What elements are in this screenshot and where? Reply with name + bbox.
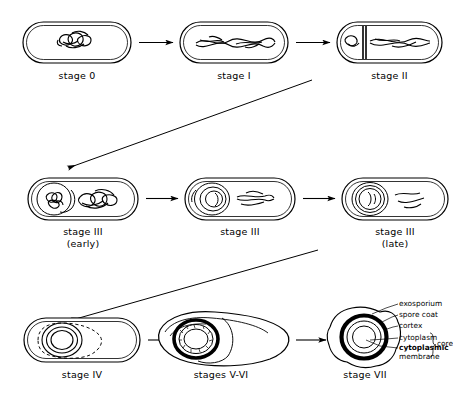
stage-i-cell — [180, 22, 288, 63]
row-1-group — [23, 22, 442, 168]
stage-label-stage-vii: stage VII — [318, 369, 412, 381]
stages-v-vi-cell — [159, 312, 289, 366]
stage-label-stages-v-vi: stages V-VI — [156, 369, 286, 381]
stage-label-text: stage II — [371, 70, 408, 81]
stage-label-stage-i: stage I — [180, 70, 288, 82]
stage-label-text: stage III — [185, 226, 295, 238]
stage-iii-mid-cell — [185, 178, 295, 220]
stage-56-spore — [174, 320, 218, 358]
arrow-stage3late-to-stage4 — [72, 250, 318, 320]
stage-vii-cytoplasmic-membrane — [353, 326, 376, 348]
row-3-group — [24, 304, 436, 367]
stage-label-text: stage I — [217, 70, 251, 81]
stage-label-text: stage IV — [62, 369, 102, 380]
callout-spore-coat: spore coat — [399, 311, 438, 320]
callout-cytoplasm: cytoplasm — [399, 334, 437, 343]
stage-label-text: stage 0 — [59, 70, 96, 81]
stage-label-text: stage III — [342, 226, 448, 238]
stage-ii-cell — [337, 22, 442, 63]
stage-iv-cell — [24, 318, 140, 362]
row-2-group — [28, 178, 448, 320]
stage-label-stage-iii-mid: stage III — [185, 226, 295, 238]
stage-label-stage-ii: stage II — [337, 70, 442, 82]
stage-iii-early-cell — [28, 178, 138, 220]
stage-label-text: stage III — [28, 226, 138, 238]
callout-core-group-label: core — [437, 340, 453, 349]
callout-cytoplasmic-membrane-line2: membrane — [399, 353, 439, 362]
callout-cortex: cortex — [399, 322, 422, 331]
stage-sublabel-text: (late) — [342, 238, 448, 250]
stage-iii-late-cell — [342, 178, 448, 220]
stage-label-stage-iii-late: stage III (late) — [342, 226, 448, 249]
stage-label-stage-0: stage 0 — [23, 70, 131, 82]
callout-exosporium: exosporium — [399, 300, 442, 309]
stage-sublabel-text: (early) — [28, 238, 138, 250]
stage-label-stage-iv: stage IV — [24, 369, 140, 381]
stage-label-stage-iii-early: stage III (early) — [28, 226, 138, 249]
arrow-stage2-to-stage3-early — [68, 80, 312, 168]
stage-0-cell — [23, 22, 131, 63]
stage-label-text: stage VII — [343, 369, 386, 380]
stage-label-text: stages V-VI — [194, 369, 249, 380]
